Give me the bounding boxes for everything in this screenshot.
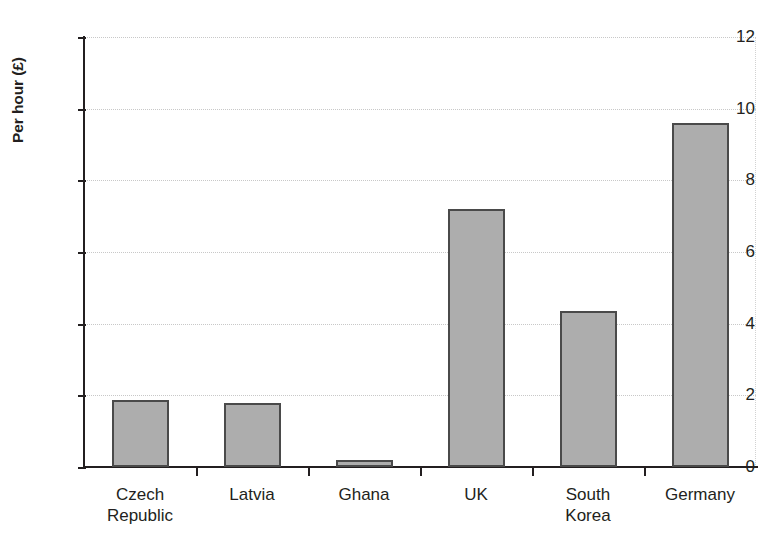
x-axis-label: Latvia [196,484,308,505]
x-axis-label: Germany [644,484,756,505]
x-axis-label: UK [420,484,532,505]
bar [112,400,169,467]
y-tick-mark [78,324,86,326]
gridline [84,37,756,38]
bar [448,209,505,467]
y-axis-title: Per hour (£) [0,0,36,200]
gridline [84,109,756,110]
x-tick-mark [308,467,310,476]
x-axis-label: South Korea [532,484,644,526]
x-tick-mark [196,467,198,476]
y-tick-mark [78,37,86,39]
bar [672,123,729,467]
y-tick-mark [78,109,86,111]
y-tick-mark [78,252,86,254]
y-tick-label: 12 [685,27,765,47]
x-tick-mark [532,467,534,476]
gridline [84,324,756,325]
gridline [84,395,756,396]
bar-chart: Per hour (£) 024681012 Czech RepublicLat… [0,0,765,539]
x-tick-mark [420,467,422,476]
gridline [84,180,756,181]
y-tick-mark [78,395,86,397]
bar [560,311,617,467]
bar [336,460,393,467]
x-tick-mark [644,467,646,476]
bar [224,403,281,468]
y-tick-mark [78,180,86,182]
gridline [84,252,756,253]
y-tick-label: 10 [685,99,765,119]
plot-area [84,37,756,467]
x-axis-label: Czech Republic [84,484,196,526]
y-tick-mark [78,467,86,469]
x-axis-label: Ghana [308,484,420,505]
y-axis-title-text: Per hour (£) [9,57,27,143]
